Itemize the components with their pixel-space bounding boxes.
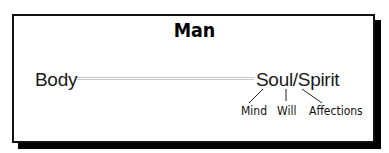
node-body: Body	[35, 70, 77, 89]
node-soul-spirit: Soul/Spirit	[256, 70, 339, 89]
node-will: Will	[277, 105, 296, 117]
node-mind: Mind	[241, 105, 267, 117]
node-affections: Affections	[309, 105, 363, 117]
diagram-title: Man	[16, 19, 374, 41]
